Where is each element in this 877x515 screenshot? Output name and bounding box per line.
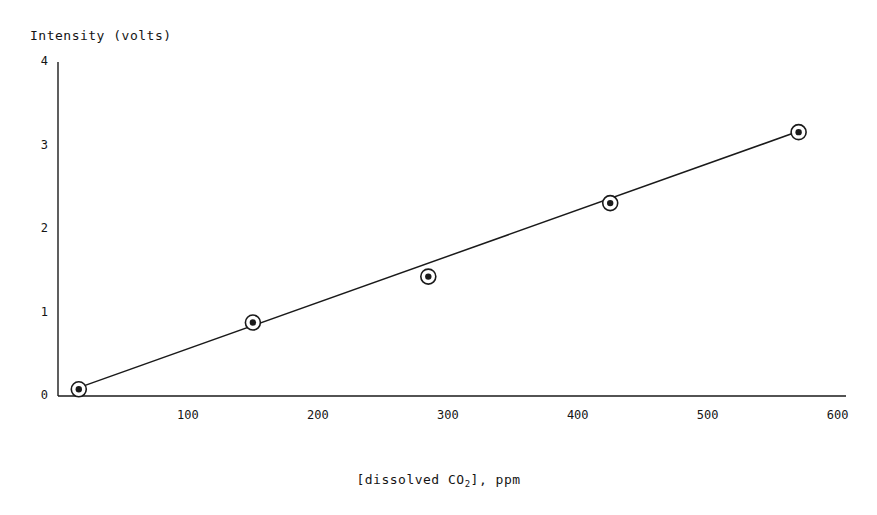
- y-tick-label: 0: [22, 388, 48, 402]
- x-axis-label-pre: [dissolved CO: [356, 472, 464, 487]
- y-tick-label: 4: [22, 54, 48, 68]
- x-tick-label: 300: [418, 408, 478, 422]
- x-axis-label-subscript: 2: [465, 479, 471, 489]
- y-tick-label: 1: [22, 305, 48, 319]
- data-point-center: [607, 200, 613, 206]
- data-point-center: [76, 386, 82, 392]
- x-axis-label-post: ], ppm: [471, 472, 521, 487]
- x-tick-label: 500: [678, 408, 738, 422]
- plot-area: [0, 0, 877, 515]
- y-tick-label: 3: [22, 138, 48, 152]
- x-tick-label: 600: [808, 408, 868, 422]
- x-tick-label: 200: [288, 408, 348, 422]
- x-tick-label: 400: [548, 408, 608, 422]
- x-axis-label: [dissolved CO2], ppm: [0, 472, 877, 487]
- fit-line: [79, 131, 799, 387]
- data-point-center: [795, 129, 801, 135]
- data-point-group: [71, 125, 806, 397]
- chart-figure: Intensity (volts) 01234 1002003004005006…: [0, 0, 877, 515]
- data-point-center: [425, 273, 431, 279]
- x-tick-label: 100: [158, 408, 218, 422]
- y-tick-label: 2: [22, 221, 48, 235]
- data-point-center: [250, 319, 256, 325]
